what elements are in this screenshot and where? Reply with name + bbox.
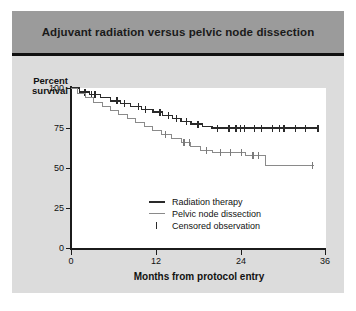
legend-label-radiation: Radiation therapy [172, 197, 243, 207]
curve-radiation-therapy [71, 88, 319, 128]
legend-line-icon-pelvic [148, 208, 166, 219]
legend-label-censored: Censored observation [172, 221, 260, 231]
legend-item-pelvic-node-dissection: Pelvic node dissection [148, 208, 308, 219]
legend-tick-icon-censored [148, 220, 166, 231]
legend-line-icon-radiation [148, 196, 166, 207]
legend-item-censored-observation: Censored observation [148, 220, 308, 231]
figure-root: Adjuvant radiation versus pelvic node di… [0, 0, 356, 311]
curve-pelvic-node-dissection [71, 88, 314, 166]
legend-label-pelvic: Pelvic node dissection [172, 209, 261, 219]
legend-item-radiation-therapy: Radiation therapy [148, 196, 308, 207]
chart-legend: Radiation therapy Pelvic node dissection… [148, 196, 308, 232]
survival-curves [0, 0, 356, 311]
